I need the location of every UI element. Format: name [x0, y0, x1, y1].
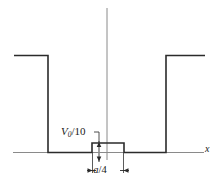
bump-width-label: a/4 [93, 165, 106, 176]
potential-well-figure: V0/10 a/4 x [0, 0, 218, 187]
potential-diagram-svg [0, 0, 218, 187]
bump-height-symbol: V [61, 125, 68, 137]
bump-width-divisor: /4 [99, 164, 107, 175]
v0-leader-line [94, 132, 99, 142]
bump-height-divisor: /10 [71, 125, 85, 137]
potential-curve [14, 56, 205, 153]
x-axis-label: x [205, 144, 209, 154]
dimension-arrow-head-left-icon [88, 168, 93, 172]
bump-height-label: V0/10 [61, 126, 86, 139]
dimension-arrow-head-right-icon [124, 168, 129, 172]
